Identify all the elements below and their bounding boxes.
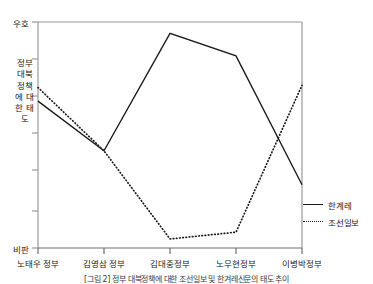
legend-label-hankyoreh: 한계레 xyxy=(328,199,351,211)
x-tick-label-1: 김영삼 정부 xyxy=(66,257,142,269)
x-tick-label-3: 노무현정부 xyxy=(198,257,274,269)
x-tick-label-4: 이병박정부 xyxy=(264,257,340,269)
axis-frame xyxy=(38,22,302,248)
legend-swatch-solid-line-icon xyxy=(303,200,323,210)
legend-item-chosunilbo[interactable]: 조선일보 xyxy=(303,213,359,230)
legend-item-hankyoreh[interactable]: 한계레 xyxy=(303,196,359,213)
y-axis-top-label: 우호 xyxy=(13,17,29,29)
series-line-hankyoreh xyxy=(38,33,302,184)
legend-swatch-dotted-line-icon xyxy=(303,217,323,227)
legend: 한계레 조선일보 xyxy=(303,196,359,230)
legend-label-chosunilbo: 조선일보 xyxy=(328,216,359,228)
y-axis-title: 정부 대북정책에 대한 태도 xyxy=(14,58,35,126)
y-axis-bottom-label: 비판 xyxy=(13,243,29,255)
y-axis-ticks xyxy=(32,22,38,248)
x-tick-label-2: 김대중정부 xyxy=(132,257,208,269)
x-tick-label-0: 노태우 정부 xyxy=(0,257,76,269)
figure-caption: [그림 2] 정부 대북정책에 대한 조선일보 및 한겨레신문의 태도 추이 xyxy=(0,273,373,284)
x-axis-ticks xyxy=(38,248,302,254)
